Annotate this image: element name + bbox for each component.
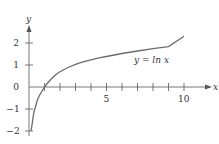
- ytick-label-2: 2: [13, 38, 19, 48]
- ytick-label-neg1: −1: [6, 104, 19, 114]
- y-axis-arrow-icon: [27, 25, 32, 32]
- xtick-label-5: 5: [104, 94, 110, 104]
- xtick-label-10: 10: [178, 94, 190, 104]
- ytick-label-neg2: −2: [6, 126, 19, 136]
- ln-curve-line: [31, 36, 184, 131]
- x-axis-label: x: [213, 82, 218, 92]
- axes: [29, 29, 208, 136]
- equation-annotation: y = ln x: [133, 55, 169, 65]
- ytick-label-0: 0: [13, 82, 19, 92]
- chart: 5 10 2 1 0 −1 −2 x y y = ln x: [0, 0, 219, 144]
- x-axis-arrow-icon: [205, 85, 212, 90]
- y-axis-label: y: [25, 14, 32, 24]
- ytick-label-1: 1: [13, 60, 19, 70]
